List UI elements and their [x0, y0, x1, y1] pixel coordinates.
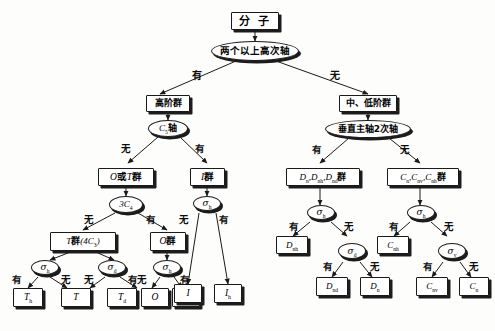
- node-leaf-ih: Ih: [214, 284, 242, 303]
- node-i-group-label: I群: [201, 172, 214, 183]
- node-leaf-dn-label: Dn: [370, 282, 379, 291]
- node-sigma-h-i-label: σh: [203, 199, 212, 208]
- edge-label-sigmah-c-no: 无: [444, 222, 454, 232]
- edge-label-sigmah-d-no: 无: [344, 222, 354, 232]
- node-three-c4-label: 3C4: [119, 200, 132, 209]
- node-sigma-h-d-group: σh: [307, 205, 335, 220]
- edge-label-two-high-axes-no: 无: [330, 71, 340, 81]
- node-leaf-cnv: Cnv: [416, 277, 448, 296]
- node-leaf-td: Td: [107, 288, 137, 307]
- node-leaf-t: T: [61, 288, 91, 307]
- edge-label-sigmah-i-yes: 有: [219, 215, 229, 225]
- node-leaf-dnh-label: Dnh: [286, 241, 298, 250]
- node-leaf-cn-label: Cn: [470, 282, 479, 291]
- edge-label-sigmav-cn-yes: 有: [423, 262, 433, 272]
- edge-label-sigmad-t-no: 无: [84, 275, 94, 285]
- edge-label-perp-no: 无: [400, 145, 410, 155]
- point-group-flowchart: 分 子 两个以上高次轴 有 无 高阶群 中、低阶群 C5轴 垂直主轴2次轴 无 …: [0, 0, 495, 331]
- node-leaf-th-label: Th: [24, 293, 32, 303]
- node-sigma-h-d-label: σh: [317, 208, 326, 217]
- edge-label-perp-yes: 有: [312, 145, 322, 155]
- edge-label-threec4-yes: 有: [146, 215, 156, 225]
- node-leaf-cnh: Cnh: [377, 236, 409, 254]
- node-molecule-label: 分 子: [239, 16, 271, 27]
- node-leaf-cnh-label: Cnh: [387, 241, 399, 250]
- node-leaf-dnd: Dnd: [316, 277, 348, 296]
- node-t-group-4c3-label: T群(4C3): [66, 237, 99, 246]
- edge-label-threec4-no: 无: [84, 215, 94, 225]
- node-perpendicular-c2-axis: 垂直主轴2次轴: [325, 120, 411, 138]
- node-leaf-cn: Cn: [459, 277, 489, 296]
- node-leaf-dnh: Dnh: [276, 236, 308, 254]
- edge-label-sigmah-o-no: 无: [137, 275, 147, 285]
- node-leaf-ih-label: Ih: [225, 289, 231, 299]
- edge-label-sigmah-d-yes: 有: [289, 222, 299, 232]
- edge-label-sigmah-t-yes: 有: [12, 275, 22, 285]
- node-leaf-i: I: [174, 284, 202, 303]
- node-perp-c2-label: 垂直主轴2次轴: [338, 125, 398, 134]
- edge-label-two-high-axes-yes: 有: [192, 71, 202, 81]
- node-leaf-i-label: I: [186, 289, 189, 299]
- node-sigma-v-cn-label: σv: [448, 247, 457, 256]
- node-three-c4: 3C4: [109, 196, 143, 213]
- node-high-order-label: 高阶群: [155, 99, 182, 108]
- node-t-group-4c3: T群(4C3): [50, 232, 116, 251]
- node-sigma-d-t-label: σd: [108, 263, 117, 272]
- node-high-order-group: 高阶群: [146, 95, 190, 112]
- node-two-high-axes: 两个以上高次轴: [211, 41, 299, 61]
- node-sigma-h-t-label: σh: [41, 263, 50, 272]
- node-leaf-dn: Dn: [360, 277, 390, 296]
- edge-label-sigmah-o-yes: 有: [180, 275, 190, 285]
- node-leaf-cnv-label: Cnv: [426, 282, 438, 291]
- node-d-groups: Dn,Dnh,Dnd群: [286, 168, 360, 186]
- node-leaf-o-label: O: [152, 293, 159, 303]
- edge-label-c5-no: 无: [121, 144, 131, 154]
- node-i-group: I群: [190, 168, 225, 186]
- node-leaf-o: O: [141, 288, 169, 307]
- edge-label-sigmad-dn-no: 无: [370, 262, 380, 272]
- edge-label-sigmah-c-yes: 有: [389, 222, 399, 232]
- node-mid-low-order-group: 中、低阶群: [339, 95, 397, 112]
- node-c-groups-label: Cn,Cnv,Cnh群: [400, 173, 446, 182]
- node-leaf-t-label: T: [73, 293, 78, 303]
- node-o-or-t-group: O或T群: [98, 168, 154, 186]
- node-two-high-axes-label: 两个以上高次轴: [220, 46, 290, 56]
- node-leaf-td-label: Td: [118, 293, 126, 303]
- node-sigma-h-o-group: σh: [153, 260, 181, 275]
- edge-label-sigmah-i-no: 无: [179, 215, 189, 225]
- edge-label-sigmav-cn-no: 无: [469, 262, 479, 272]
- edge-label-c5-yes: 有: [195, 144, 205, 154]
- node-sigma-d-t-group: σd: [98, 260, 126, 275]
- node-sigma-h-t-group: σh: [31, 260, 59, 275]
- node-leaf-dnd-label: Dnd: [326, 282, 338, 291]
- node-c5-axis-label: C5轴: [159, 124, 177, 133]
- node-c-groups: Cn,Cnv,Cnh群: [387, 168, 459, 186]
- node-o-group: O群: [150, 232, 186, 251]
- node-sigma-h-c-group: σh: [407, 205, 435, 220]
- node-o-group-label: O群: [160, 236, 177, 247]
- node-sigma-v-cn: σv: [438, 243, 466, 259]
- edge-label-sigmah-t-no: 无: [61, 275, 71, 285]
- node-mid-low-order-label: 中、低阶群: [346, 99, 391, 108]
- node-sigma-d-dn-label: σd: [348, 247, 357, 256]
- node-c5-axis: C5轴: [148, 120, 188, 137]
- node-o-or-t-group-label: O或T群: [110, 172, 142, 183]
- edge-label-sigmad-dn-yes: 有: [323, 262, 333, 272]
- node-leaf-th: Th: [13, 288, 43, 307]
- node-molecule: 分 子: [231, 12, 279, 30]
- node-sigma-h-o-label: σh: [163, 263, 172, 272]
- node-sigma-d-dn: σd: [338, 243, 366, 259]
- node-sigma-h-c-label: σh: [417, 208, 426, 217]
- node-sigma-h-i-group: σh: [193, 196, 221, 211]
- node-d-groups-label: Dn,Dnh,Dnd群: [300, 173, 347, 182]
